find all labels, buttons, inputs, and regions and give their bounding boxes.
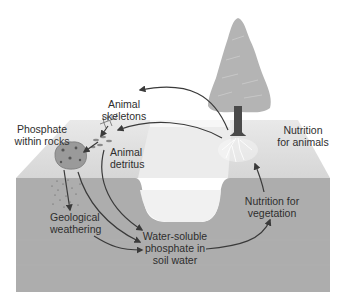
trench-water — [140, 190, 221, 222]
label-phosphate-within-rocks: Phosphate within rocks — [6, 123, 78, 147]
label-geological-weathering: Geological weathering — [50, 211, 112, 235]
label-animal-skeletons: Animal skeletons — [92, 98, 156, 122]
tree-foliage — [208, 18, 271, 112]
label-water-soluble-phosphate: Water-soluble phosphate in soil water — [140, 230, 210, 266]
phosphorus-cycle-diagram: Animal skeletons Phosphate within rocks … — [0, 0, 342, 304]
label-nutrition-for-vegetation: Nutrition for vegetation — [236, 195, 308, 219]
label-animal-detritus: Animal detritus — [110, 146, 160, 170]
label-nutrition-for-animals: Nutrition for animals — [270, 124, 336, 148]
